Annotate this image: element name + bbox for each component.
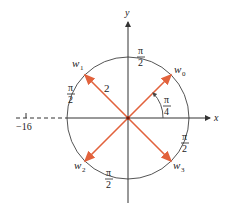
arc-label-left: π 2 xyxy=(67,82,75,105)
svg-text:4: 4 xyxy=(164,106,169,117)
angle-arc xyxy=(153,93,163,118)
svg-text:3: 3 xyxy=(181,166,185,174)
root-label-w3: w 3 xyxy=(173,159,185,174)
svg-text:2: 2 xyxy=(68,94,73,105)
svg-text:π: π xyxy=(68,82,73,93)
arc-label-bottom: π 2 xyxy=(105,167,113,190)
arc-label-top: π 2 xyxy=(137,45,145,68)
root-label-w2: w 2 xyxy=(74,159,86,174)
svg-text:2: 2 xyxy=(138,57,143,68)
roots-diagram: y x −16 2 w 0 w 1 w 2 w 3 π 4 π 2 π 2 π … xyxy=(0,0,232,212)
x-axis-label: x xyxy=(213,112,219,123)
vector-w3 xyxy=(128,118,171,161)
svg-text:π: π xyxy=(164,94,169,105)
svg-text:2: 2 xyxy=(82,166,86,174)
svg-text:0: 0 xyxy=(182,70,186,78)
arc-label-right: π 2 xyxy=(181,131,189,154)
svg-text:1: 1 xyxy=(80,64,84,72)
svg-text:w: w xyxy=(174,63,182,75)
svg-text:π: π xyxy=(106,167,111,178)
root-label-w0: w 0 xyxy=(174,63,186,78)
svg-text:π: π xyxy=(138,45,143,56)
svg-text:w: w xyxy=(74,159,82,171)
svg-text:w: w xyxy=(72,57,80,69)
root-label-w1: w 1 xyxy=(72,57,84,72)
svg-text:2: 2 xyxy=(106,179,111,190)
radius-label: 2 xyxy=(104,82,110,94)
origin-dot xyxy=(126,116,130,120)
vector-w2 xyxy=(85,118,128,161)
svg-text:π: π xyxy=(182,131,187,142)
svg-text:2: 2 xyxy=(182,143,187,154)
y-axis-label: y xyxy=(124,7,130,18)
angle-label: π 4 xyxy=(163,94,171,117)
svg-text:w: w xyxy=(173,159,181,171)
x-tick-label: −16 xyxy=(16,121,32,132)
